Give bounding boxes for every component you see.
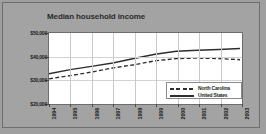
x-axis-tick-mark	[221, 104, 222, 107]
x-axis-tick-label: 1998	[137, 108, 143, 119]
legend-swatch-solid	[170, 95, 194, 97]
gridline-vertical	[92, 33, 93, 104]
x-axis-tick-label: 1995	[72, 108, 78, 119]
gridline-vertical	[156, 33, 157, 104]
x-axis-tick-label: 1997	[115, 108, 121, 119]
x-axis-tick-mark	[199, 104, 200, 107]
x-axis-tick-label: 1994	[51, 108, 57, 119]
legend-item: United States	[170, 92, 240, 99]
y-axis-tick-label: $30,000	[30, 77, 47, 83]
x-axis-tick-mark	[113, 104, 114, 107]
x-axis-tick-mark	[242, 104, 243, 107]
x-axis-tick-label: 1996	[94, 108, 100, 119]
x-axis-tick-mark	[178, 104, 179, 107]
legend-label: United States	[198, 92, 227, 98]
x-axis-tick-mark	[135, 104, 136, 107]
chart-frame: Median household income $20,000$30,000$4…	[2, 2, 260, 128]
x-axis-tick-label: 2000	[180, 108, 186, 119]
legend-label: North Carolina	[198, 85, 230, 91]
x-axis-tick-label: 2003	[244, 108, 250, 119]
x-axis-tick-label: 1999	[158, 108, 164, 119]
y-axis-tick-label: $20,000	[30, 101, 47, 107]
gridline-vertical	[70, 33, 71, 104]
legend-item: North Carolina	[170, 85, 240, 92]
chart-legend: North CarolinaUnited States	[166, 82, 242, 99]
series-line-united-states	[49, 48, 240, 73]
y-axis-tick-label: $40,000	[30, 54, 47, 60]
x-axis-tick-mark	[92, 104, 93, 107]
legend-swatch-dashed	[170, 88, 194, 90]
x-axis-tick-label: 2002	[223, 108, 229, 119]
y-axis-tick-label: $50,000	[30, 30, 47, 36]
x-axis-tick-label: 2001	[201, 108, 207, 119]
gridline-horizontal	[49, 57, 242, 58]
gridline-vertical	[135, 33, 136, 104]
x-axis-tick-mark	[49, 104, 50, 107]
gridline-vertical	[113, 33, 114, 104]
x-axis-tick-mark	[156, 104, 157, 107]
x-axis-tick-mark	[70, 104, 71, 107]
chart-title: Median household income	[47, 12, 145, 21]
